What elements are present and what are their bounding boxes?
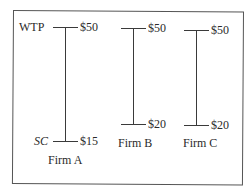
firm-b-range-line: [133, 28, 134, 124]
firm-a-sc-value: $15: [80, 135, 98, 147]
firm-b-wtp-value: $50: [148, 22, 166, 34]
firm-a-wtp-value: $50: [80, 21, 98, 33]
firm-c-range-line: [196, 30, 197, 125]
firm-c-sc-tick: [184, 125, 209, 126]
firm-c-label: Firm C: [183, 137, 217, 149]
firm-b-sc-value: $20: [148, 118, 166, 130]
firm-a-sc-tick: [53, 141, 78, 142]
sc-axis-label: SC: [34, 135, 48, 147]
diagram-frame: [12, 10, 244, 185]
firm-c-sc-value: $20: [211, 119, 229, 131]
firm-a-range-line: [65, 27, 66, 141]
firm-c-wtp-value: $50: [211, 24, 229, 36]
firm-b-label: Firm B: [118, 137, 152, 149]
firm-b-sc-tick: [121, 124, 146, 125]
wtp-axis-label: WTP: [19, 21, 44, 33]
firm-a-label: Firm A: [48, 154, 82, 166]
